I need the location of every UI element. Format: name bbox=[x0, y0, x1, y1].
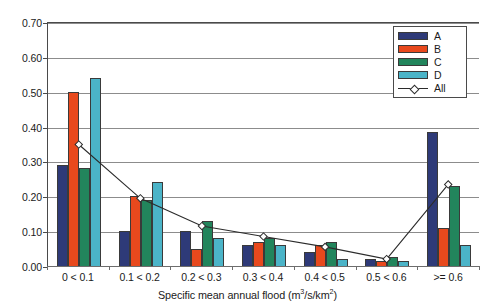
x-tick-label: 0.5 < 0.6 bbox=[366, 271, 406, 283]
bar-group bbox=[233, 23, 295, 266]
legend-label: All bbox=[434, 83, 446, 94]
x-tick-label: 0.4 < 0.5 bbox=[305, 271, 345, 283]
bar-b-3 bbox=[191, 249, 202, 266]
bar-c-5 bbox=[326, 242, 337, 266]
bar-c-2 bbox=[141, 200, 152, 266]
bar-c-3 bbox=[202, 221, 213, 266]
legend-label: C bbox=[434, 57, 442, 68]
legend-swatch-a bbox=[398, 32, 428, 40]
bar-d-7 bbox=[460, 245, 471, 266]
legend-label: D bbox=[434, 70, 442, 81]
bar-d-3 bbox=[213, 238, 224, 266]
bar-a-4 bbox=[242, 245, 253, 266]
y-tick-label: 0.40 bbox=[22, 122, 42, 134]
bar-group bbox=[171, 23, 233, 266]
bar-a-1 bbox=[57, 165, 68, 266]
bar-b-5 bbox=[315, 245, 326, 266]
bar-d-4 bbox=[275, 245, 286, 266]
x-tick-mark bbox=[294, 266, 295, 270]
bar-c-4 bbox=[264, 238, 275, 266]
y-tick-label: 0.60 bbox=[22, 52, 42, 64]
x-tick-label: >= 0.6 bbox=[434, 271, 463, 283]
legend-label: A bbox=[434, 31, 441, 42]
y-tick-label: 0.20 bbox=[22, 191, 42, 203]
bar-group bbox=[295, 23, 357, 266]
legend-line-marker-icon bbox=[398, 84, 428, 92]
bar-a-2 bbox=[119, 231, 130, 266]
y-tick-label: 0.00 bbox=[22, 261, 42, 273]
bar-b-4 bbox=[253, 242, 264, 266]
bar-d-1 bbox=[90, 78, 101, 266]
x-axis-line bbox=[47, 266, 479, 267]
x-tick-mark bbox=[417, 266, 418, 270]
x-tick-mark bbox=[47, 266, 48, 270]
x-tick-label: 0.3 < 0.4 bbox=[243, 271, 283, 283]
legend-item-c[interactable]: C bbox=[398, 56, 462, 68]
legend-item-all[interactable]: All bbox=[398, 82, 462, 94]
legend-item-a[interactable]: A bbox=[398, 30, 462, 42]
legend-item-b[interactable]: B bbox=[398, 43, 462, 55]
x-axis-title: Specific mean annual flood (m3/s/km2) bbox=[0, 287, 495, 301]
bar-c-1 bbox=[79, 168, 90, 266]
x-tick-mark bbox=[232, 266, 233, 270]
bar-a-3 bbox=[180, 231, 191, 266]
x-tick-label: 0.2 < 0.3 bbox=[181, 271, 221, 283]
bar-c-6 bbox=[387, 257, 398, 266]
x-tick-mark bbox=[109, 266, 110, 270]
bar-a-7 bbox=[427, 132, 438, 266]
x-tick-label: 0.1 < 0.2 bbox=[119, 271, 159, 283]
bar-b-2 bbox=[130, 196, 141, 266]
bar-group bbox=[110, 23, 172, 266]
bar-group bbox=[48, 23, 110, 266]
y-tick-label: 0.10 bbox=[22, 226, 42, 238]
x-tick-mark bbox=[356, 266, 357, 270]
legend-item-d[interactable]: D bbox=[398, 69, 462, 81]
x-tick-mark bbox=[170, 266, 171, 270]
y-tick-label: 0.30 bbox=[22, 156, 42, 168]
y-tick-label: 0.70 bbox=[22, 17, 42, 29]
legend-swatch-c bbox=[398, 58, 428, 66]
x-tick-label: 0 < 0.1 bbox=[62, 271, 94, 283]
bar-c-7 bbox=[449, 186, 460, 266]
bar-d-5 bbox=[337, 259, 348, 266]
x-tick-mark bbox=[479, 266, 480, 270]
legend-label: B bbox=[434, 44, 441, 55]
legend: ABCDAll bbox=[393, 26, 467, 98]
bar-a-6 bbox=[365, 259, 376, 266]
bar-d-2 bbox=[152, 182, 163, 266]
bar-a-5 bbox=[304, 252, 315, 266]
y-tick-label: 0.50 bbox=[22, 87, 42, 99]
bar-b-1 bbox=[68, 92, 79, 266]
legend-swatch-d bbox=[398, 71, 428, 79]
chart-figure: 0.000.100.200.300.400.500.600.70 0 < 0.1… bbox=[0, 0, 495, 308]
legend-swatch-b bbox=[398, 45, 428, 53]
bar-b-7 bbox=[438, 228, 449, 266]
